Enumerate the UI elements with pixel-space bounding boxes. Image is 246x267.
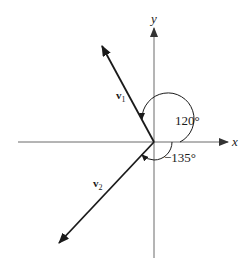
vector-diagram: x y v1 v2 120° −135° — [0, 0, 246, 267]
angle-label-neg135: −135° — [164, 150, 196, 165]
vector-v2 — [59, 142, 154, 243]
x-axis-label: x — [231, 134, 238, 149]
vector-v1-label: v1 — [116, 89, 126, 104]
vector-v1 — [102, 46, 154, 142]
vector-v2-label: v2 — [93, 177, 103, 192]
y-axis-label: y — [149, 11, 157, 26]
angle-label-120: 120° — [175, 113, 200, 128]
